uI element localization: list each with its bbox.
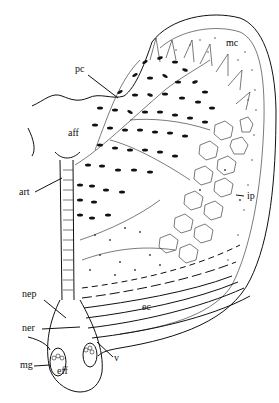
left-tissue-bulge	[28, 128, 34, 156]
dark-cell-clusters	[77, 56, 215, 220]
label-pc: pc	[75, 63, 85, 74]
label-mc: mc	[226, 37, 239, 48]
label-ec: ec	[142, 301, 151, 312]
leader-lines	[34, 75, 244, 366]
label-mg: mg	[20, 359, 33, 370]
lower-bulb	[28, 300, 102, 392]
label-v: v	[114, 352, 119, 363]
label-aff: aff	[68, 127, 80, 138]
label-nep: nep	[22, 288, 36, 299]
radial-column	[55, 152, 80, 300]
branching-vessels	[75, 60, 210, 260]
polygonal-cells	[159, 117, 253, 263]
outer-capsule-outline	[98, 15, 276, 356]
label-ip: ip	[247, 190, 255, 201]
label-eff: eff	[57, 365, 69, 376]
labels: mc pc aff art ip ec nep ner v mg eff	[19, 37, 255, 376]
label-art: art	[19, 186, 30, 197]
radial-spikes	[150, 38, 250, 110]
scattered-dots	[89, 169, 241, 276]
label-ner: ner	[22, 322, 35, 333]
anatomical-diagram: mc pc aff art ip ec nep ner v mg eff	[0, 0, 279, 403]
ec-fibers	[82, 245, 250, 338]
